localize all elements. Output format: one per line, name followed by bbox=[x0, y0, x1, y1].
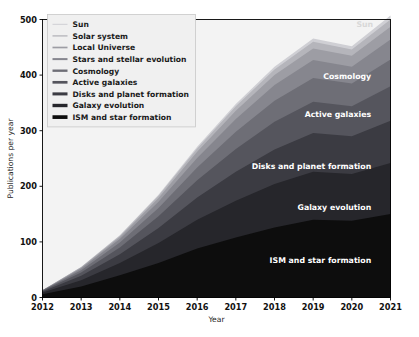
y-tick-label: 400 bbox=[20, 70, 37, 80]
x-axis-title: Year bbox=[207, 315, 225, 324]
y-tick-label: 500 bbox=[20, 15, 37, 25]
band-label: Disks and planet formation bbox=[252, 162, 372, 171]
chart-legend: SunSolar systemLocal UniverseStars and s… bbox=[48, 15, 196, 127]
x-tick-label: 2018 bbox=[263, 302, 286, 312]
x-tick-label: 2015 bbox=[147, 302, 170, 312]
legend-entry-label: Solar system bbox=[73, 32, 129, 41]
y-axis-title: Publications per year bbox=[6, 118, 15, 199]
x-tick-label: 2013 bbox=[70, 302, 93, 312]
legend-entry-label: Active galaxies bbox=[73, 78, 138, 87]
legend-entry-label: Stars and stellar evolution bbox=[73, 55, 187, 64]
y-tick-label: 100 bbox=[20, 237, 37, 247]
stacked-area-chart: SunSolar systemLocal UniverseStars and s… bbox=[0, 0, 419, 337]
legend-entry-label: Disks and planet formation bbox=[73, 90, 189, 99]
x-tick-label: 2019 bbox=[302, 302, 325, 312]
x-tick-label: 2017 bbox=[224, 302, 247, 312]
chart-figure: SunSolar systemLocal UniverseStars and s… bbox=[0, 0, 419, 337]
x-tick-label: 2021 bbox=[379, 302, 402, 312]
x-tick-label: 2020 bbox=[340, 302, 363, 312]
y-tick-label: 200 bbox=[20, 181, 37, 191]
band-label: Sun bbox=[356, 20, 373, 29]
y-tick-label: 0 bbox=[31, 293, 37, 303]
x-tick-label: 2016 bbox=[186, 302, 209, 312]
legend-entry-label: Local Universe bbox=[73, 43, 136, 52]
legend-entry-label: Cosmology bbox=[73, 67, 120, 76]
x-tick-label: 2012 bbox=[31, 302, 54, 312]
x-tick-label: 2014 bbox=[108, 302, 131, 312]
legend-entry-label: Galaxy evolution bbox=[73, 101, 145, 110]
band-label: Cosmology bbox=[323, 72, 371, 81]
y-tick-label: 300 bbox=[20, 126, 37, 136]
legend-entry-label: ISM and star formation bbox=[73, 113, 172, 122]
legend-entry-label: Sun bbox=[73, 20, 89, 29]
band-label: ISM and star formation bbox=[270, 256, 372, 265]
band-label: Active galaxies bbox=[305, 110, 372, 119]
band-label: Galaxy evolution bbox=[298, 203, 372, 212]
